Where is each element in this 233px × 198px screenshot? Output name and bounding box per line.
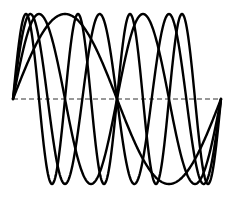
sine-waves-chart — [0, 0, 233, 198]
